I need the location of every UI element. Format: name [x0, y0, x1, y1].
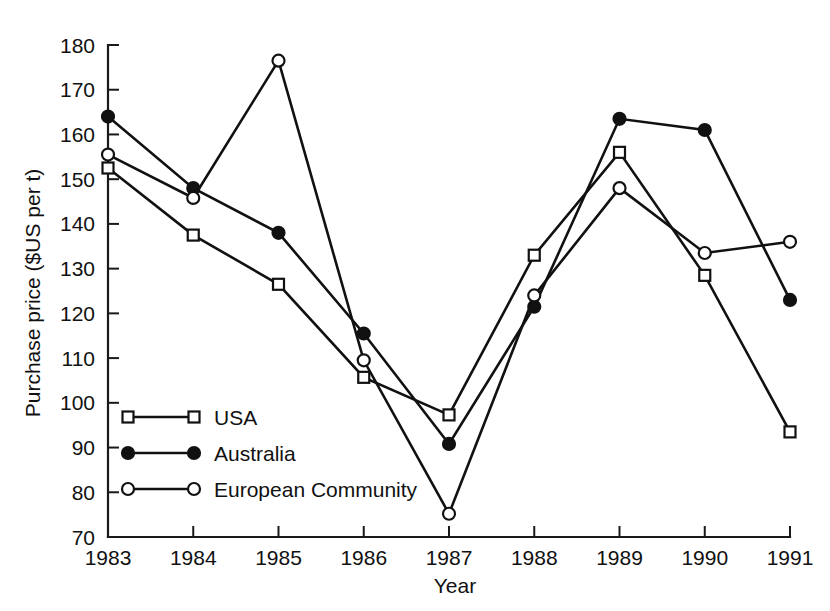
marker-open-square	[785, 426, 796, 437]
legend-label: USA	[214, 406, 257, 429]
x-tick-label: 1988	[511, 546, 558, 569]
series-australia	[102, 111, 796, 450]
legend-label: European Community	[214, 478, 418, 501]
y-tick-label: 170	[60, 78, 95, 101]
x-tick-label: 1990	[681, 546, 728, 569]
series-layer	[102, 55, 796, 520]
marker-open-square	[358, 372, 369, 383]
marker-filled-circle	[443, 438, 455, 450]
legend-item-european-community[interactable]: European Community	[122, 478, 418, 501]
marker-open-circle	[443, 508, 455, 520]
marker-open-circle	[614, 182, 626, 194]
y-tick-label: 100	[60, 391, 95, 414]
x-tick-label: 1989	[596, 546, 643, 569]
y-tick-label: 110	[62, 347, 95, 370]
y-axis-title: Purchase price ($US per t)	[21, 169, 44, 418]
series-polyline	[108, 117, 790, 444]
plot-axes	[108, 45, 790, 537]
legend-label: Australia	[214, 442, 296, 465]
marker-open-square	[614, 147, 625, 158]
marker-filled-circle	[358, 327, 370, 339]
marker-open-circle	[784, 236, 796, 248]
marker-open-square	[273, 279, 284, 290]
marker-open-circle	[699, 247, 711, 259]
marker-open-circle	[528, 289, 540, 301]
chart-legend: USAAustraliaEuropean Community	[122, 406, 418, 501]
marker-open-square	[444, 409, 455, 420]
marker-open-circle	[188, 483, 200, 495]
y-tick-label: 160	[60, 123, 95, 146]
marker-open-circle	[122, 483, 134, 495]
x-axis-ticks	[108, 526, 790, 537]
series-usa	[103, 147, 796, 438]
marker-open-square	[188, 230, 199, 241]
marker-filled-circle	[784, 294, 796, 306]
marker-filled-circle	[102, 111, 114, 123]
legend-item-usa[interactable]: USA	[123, 406, 258, 429]
y-tick-label: 80	[72, 481, 95, 504]
marker-open-square	[189, 412, 200, 423]
marker-open-circle	[187, 192, 199, 204]
x-tick-label: 1984	[170, 546, 217, 569]
x-axis-title: Year	[434, 574, 476, 597]
marker-open-square	[103, 163, 114, 174]
marker-open-square	[123, 412, 134, 423]
marker-filled-circle	[188, 447, 200, 459]
y-tick-label: 140	[60, 212, 95, 235]
marker-open-circle	[102, 149, 114, 161]
marker-filled-circle	[273, 227, 285, 239]
y-tick-label: 90	[72, 436, 95, 459]
x-tick-label: 1987	[426, 546, 473, 569]
x-tick-label: 1991	[767, 546, 814, 569]
chart-page: 708090100110120130140150160170180 198319…	[0, 0, 830, 611]
x-tick-label: 1983	[85, 546, 132, 569]
y-tick-label: 180	[60, 34, 95, 57]
marker-filled-circle	[699, 124, 711, 136]
marker-filled-circle	[614, 113, 626, 125]
marker-filled-circle	[122, 447, 134, 459]
y-tick-label: 130	[60, 257, 95, 280]
y-tick-label: 120	[60, 302, 95, 325]
y-tick-label: 150	[60, 168, 95, 191]
marker-open-square	[699, 270, 710, 281]
x-tick-label: 1985	[255, 546, 302, 569]
marker-open-square	[529, 250, 540, 261]
legend-item-australia[interactable]: Australia	[122, 442, 296, 465]
y-axis-tick-labels: 708090100110120130140150160170180	[60, 34, 95, 549]
marker-open-circle	[273, 55, 285, 67]
marker-open-circle	[358, 354, 370, 366]
x-axis-tick-labels: 198319841985198619871988198919901991	[85, 546, 814, 569]
x-tick-label: 1986	[340, 546, 387, 569]
line-chart: 708090100110120130140150160170180 198319…	[0, 0, 830, 611]
series-polyline	[108, 152, 790, 432]
